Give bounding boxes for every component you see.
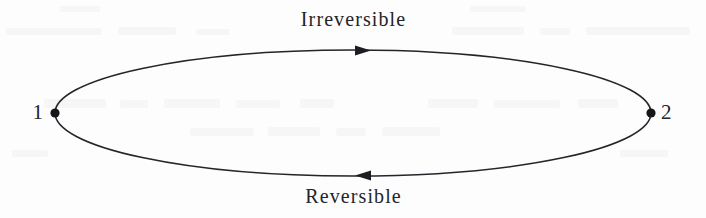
process-label-irreversible: Irreversible xyxy=(0,9,706,29)
top-arrowhead-icon xyxy=(355,46,371,56)
cycle-path-ellipse xyxy=(55,50,651,176)
cycle-diagram-figure: Irreversible Reversible 1 2 xyxy=(0,0,706,218)
state-label-1: 1 xyxy=(25,102,43,123)
state-label-2: 2 xyxy=(661,102,679,123)
bottom-arrowhead-icon xyxy=(355,171,371,181)
state-point-2 xyxy=(646,108,655,117)
state-point-1 xyxy=(50,108,59,117)
process-label-reversible: Reversible xyxy=(0,186,706,206)
